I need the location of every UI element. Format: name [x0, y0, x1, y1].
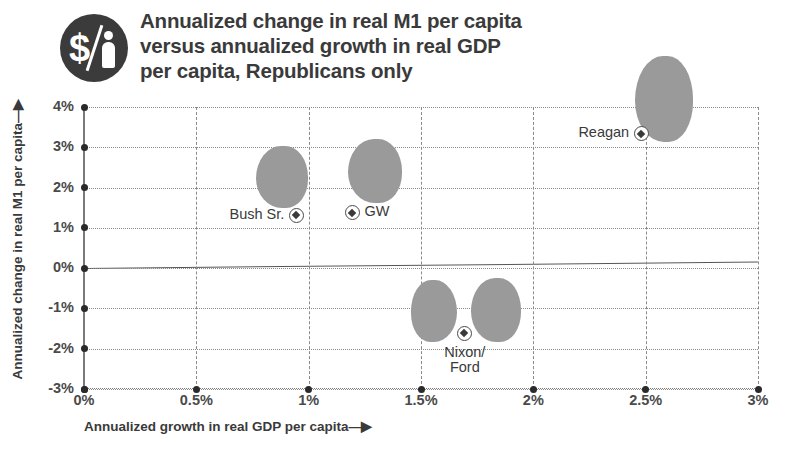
y-axis-tick-dot [81, 305, 88, 312]
x-axis-arrow-icon: —▶ [349, 419, 372, 434]
president-silhouette-icon [348, 139, 402, 203]
gridline-vertical [646, 107, 647, 389]
y-axis-tick-label: -2% [28, 340, 74, 356]
gridline-vertical [309, 107, 310, 389]
y-axis-tick-dot [81, 345, 88, 352]
x-axis-title: Annualized growth in real GDP per capita… [84, 418, 371, 434]
x-axis-tick-label: 2.5% [611, 392, 681, 408]
gridline-vertical [758, 107, 759, 389]
x-axis-tick-label: 0% [49, 392, 119, 408]
x-axis-tick-label: 1.5% [386, 392, 456, 408]
y-axis-tick-dot [81, 184, 88, 191]
plot-area: Bush Sr.GWNixon/ FordReagan [84, 107, 758, 389]
y-axis-tick-label: 1% [28, 219, 74, 235]
data-point-marker[interactable] [457, 326, 472, 341]
y-axis-tick-label: -1% [28, 299, 74, 315]
y-axis-tick-label: 3% [28, 138, 74, 154]
x-axis-title-text: Annualized growth in real GDP per capita [84, 419, 349, 434]
y-axis-tick-label: 0% [28, 259, 74, 275]
x-axis-tick-label: 1% [274, 392, 344, 408]
x-axis-tick-label: 0.5% [161, 392, 231, 408]
president-silhouette-icon [471, 278, 521, 342]
y-axis-tick-dot [81, 144, 88, 151]
x-axis-tick-label: 2% [498, 392, 568, 408]
president-silhouette-icon [256, 146, 308, 208]
x-axis-tick-label: 3% [723, 392, 793, 408]
gridline-vertical [421, 107, 422, 389]
gridline-vertical [196, 107, 197, 389]
y-axis-title-text: Annualized change in real M1 per capita [10, 123, 25, 380]
gridline-vertical [533, 107, 534, 389]
data-point-label: GW [364, 204, 389, 219]
y-axis-tick-dot [81, 265, 88, 272]
y-axis-tick-dot [81, 104, 88, 111]
dollar-person-badge-icon: $ [60, 14, 128, 82]
data-point-label: Bush Sr. [229, 207, 284, 222]
data-point-label: Reagan [578, 125, 629, 140]
data-point-marker[interactable] [345, 205, 360, 220]
y-axis-tick-dot [81, 224, 88, 231]
data-point-marker[interactable] [289, 208, 304, 223]
person-body-icon [102, 42, 115, 68]
data-point-label: Nixon/ Ford [444, 345, 485, 375]
president-silhouette-icon [411, 280, 457, 342]
y-axis-arrow-icon: —▶ [10, 100, 25, 123]
y-axis-tick-label: 4% [28, 98, 74, 114]
y-axis-title: Annualized change in real M1 per capita—… [9, 95, 25, 385]
person-head-icon [104, 31, 113, 40]
y-axis-tick-label: 2% [28, 179, 74, 195]
